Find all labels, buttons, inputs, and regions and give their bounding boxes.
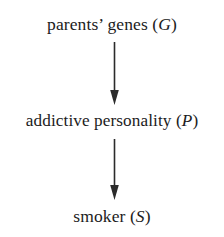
arrow-personality-to-smoker-head-icon: [110, 185, 119, 200]
node-addictive-personality-variable: P: [182, 111, 193, 130]
node-smoker-label: smoker (: [73, 206, 136, 226]
node-parents-genes-label: parents’ genes (: [47, 14, 158, 34]
node-smoker-label-suffix: ): [145, 206, 151, 226]
node-parents-genes: parents’ genes (G): [0, 16, 224, 34]
node-addictive-personality: addictive personality (P): [0, 112, 224, 129]
arrow-genes-to-personality: [110, 42, 119, 105]
node-parents-genes-variable: G: [158, 14, 171, 34]
node-smoker-variable: S: [136, 206, 145, 226]
node-smoker: smoker (S): [0, 208, 224, 226]
node-addictive-personality-label-suffix: ): [192, 111, 198, 130]
arrow-personality-to-smoker: [110, 139, 119, 200]
causal-chain-diagram: parents’ genes (G) addictive personality…: [0, 0, 224, 237]
node-addictive-personality-label: addictive personality (: [26, 111, 182, 130]
node-parents-genes-label-suffix: ): [171, 14, 177, 34]
arrow-genes-to-personality-head-icon: [110, 90, 119, 105]
